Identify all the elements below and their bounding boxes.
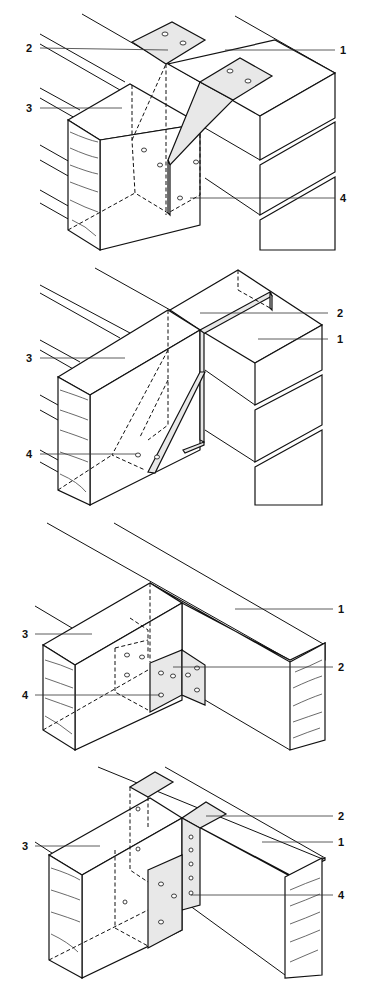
panel-d: 2 3 1 4 [22, 767, 345, 978]
label-4: 4 [26, 448, 33, 460]
label-4: 4 [340, 192, 347, 204]
label-3: 3 [26, 102, 32, 114]
label-1: 1 [337, 333, 343, 345]
label-4: 4 [22, 689, 29, 701]
label-2: 2 [26, 42, 32, 54]
label-4: 4 [338, 889, 345, 901]
label-3: 3 [22, 840, 28, 852]
label-1: 1 [338, 603, 344, 615]
panel-b: 2 1 3 4 [26, 268, 343, 505]
label-3: 3 [26, 352, 32, 364]
joist-hanger-diagram: 2 1 3 4 [0, 0, 366, 988]
label-3: 3 [22, 628, 28, 640]
label-2: 2 [337, 307, 343, 319]
panel-c: 1 3 2 4 [22, 523, 344, 750]
label-1: 1 [338, 836, 344, 848]
label-2: 2 [338, 661, 344, 673]
label-2: 2 [338, 810, 344, 822]
label-1: 1 [340, 44, 346, 56]
panel-a: 2 1 3 4 [26, 14, 347, 250]
